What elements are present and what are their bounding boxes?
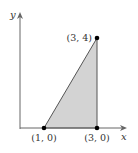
point-label-1-0: (1, 0) — [31, 132, 57, 143]
point-label-3-4: (3, 4) — [66, 32, 92, 43]
y-axis-label: y — [9, 9, 16, 20]
shaded-triangle-region — [44, 38, 97, 128]
point-3-4 — [95, 36, 100, 41]
point-1-0 — [42, 126, 47, 131]
coordinate-diagram: y x (1, 0) (3, 0) (3, 4) — [0, 0, 138, 153]
point-label-3-0: (3, 0) — [84, 132, 110, 143]
point-3-0 — [95, 126, 100, 131]
x-axis-label: x — [121, 131, 127, 142]
